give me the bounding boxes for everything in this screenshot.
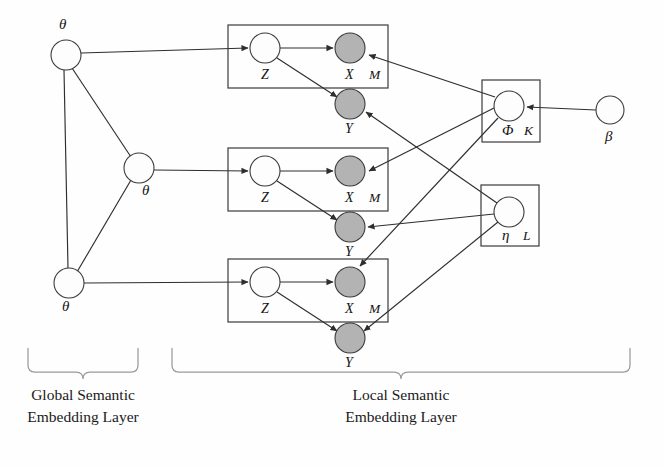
plate-m-bottom-count-label: M — [368, 301, 381, 316]
theta-connector-edges — [64, 68, 131, 272]
plate-k: Φ K — [482, 80, 540, 142]
node-y-top — [335, 89, 365, 119]
plate-m-middle: Z X Y M — [228, 148, 388, 259]
brace-local — [172, 348, 630, 379]
node-beta-group: β — [596, 96, 624, 144]
theta-to-z-edges — [81, 48, 248, 283]
node-x-bottom — [335, 267, 365, 297]
caption-global-line1: Global Semantic — [31, 386, 135, 403]
caption-local: Local Semantic Embedding Layer — [345, 386, 457, 425]
graphical-model-figure: Z X Y M Z X Y M Z X Y — [0, 0, 663, 467]
edge-beta-to-phi — [527, 107, 596, 110]
plate-l-count-label: L — [522, 228, 531, 243]
plate-l: η L — [481, 185, 539, 246]
node-z-top — [250, 33, 280, 63]
caption-global-line2: Embedding Layer — [27, 408, 139, 425]
label-theta-top: θ — [59, 16, 67, 32]
node-phi — [494, 91, 524, 121]
plate-m-top-count-label: M — [368, 67, 381, 82]
caption-local-line1: Local Semantic — [353, 386, 450, 403]
eta-to-y-edges — [364, 112, 498, 331]
edge-phi-to-x-middle — [369, 108, 494, 171]
node-beta — [596, 96, 624, 124]
plate-m-bottom: Z X Y M — [228, 259, 388, 370]
node-theta-top — [51, 40, 81, 70]
edge-theta-middle-to-theta-bottom — [77, 180, 131, 272]
label-phi: Φ — [502, 122, 514, 138]
node-eta — [494, 197, 524, 227]
graph-canvas: Z X Y M Z X Y M Z X Y — [0, 0, 663, 467]
label-z-middle: Z — [261, 190, 269, 205]
label-eta: η — [502, 227, 509, 243]
node-x-middle — [335, 156, 365, 186]
label-x-middle: X — [344, 190, 354, 205]
edge-theta-bottom-to-z-bottom — [84, 282, 248, 283]
edge-eta-to-y-middle — [368, 214, 494, 227]
label-y-middle: Y — [345, 244, 355, 259]
edge-z-to-y-middle — [277, 181, 337, 220]
label-theta-middle: θ — [142, 182, 150, 198]
edge-theta-top-to-theta-middle — [72, 68, 131, 157]
edge-eta-to-y-bottom — [364, 222, 498, 331]
caption-local-line2: Embedding Layer — [345, 408, 457, 425]
node-theta-bottom — [54, 268, 84, 298]
plate-m-middle-count-label: M — [368, 190, 381, 205]
plate-m-top: Z X Y M — [228, 25, 388, 136]
edge-theta-middle-to-z-middle — [154, 170, 248, 171]
edge-z-to-y-bottom — [277, 292, 337, 331]
brace-local-path — [172, 348, 630, 379]
brace-global — [28, 348, 138, 379]
label-x-bottom: X — [344, 301, 354, 316]
plate-k-count-label: K — [523, 123, 534, 138]
node-y-bottom — [335, 323, 365, 353]
label-z-bottom: Z — [261, 301, 269, 316]
node-theta-middle — [124, 153, 154, 183]
edge-theta-top-to-theta-bottom — [64, 70, 68, 268]
label-beta: β — [604, 128, 613, 144]
label-y-top: Y — [345, 121, 355, 136]
phi-to-x-edges — [360, 55, 498, 266]
label-y-bottom: Y — [345, 355, 355, 370]
edge-theta-top-to-z-top — [81, 48, 248, 53]
label-x-top: X — [344, 67, 354, 82]
edge-z-to-y-top — [277, 58, 337, 97]
node-z-bottom — [250, 267, 280, 297]
node-z-middle — [250, 156, 280, 186]
caption-global: Global Semantic Embedding Layer — [27, 386, 139, 425]
node-y-middle — [335, 212, 365, 242]
brace-global-path — [28, 348, 138, 379]
label-z-top: Z — [261, 67, 269, 82]
node-x-top — [335, 33, 365, 63]
label-theta-bottom: θ — [62, 298, 70, 314]
